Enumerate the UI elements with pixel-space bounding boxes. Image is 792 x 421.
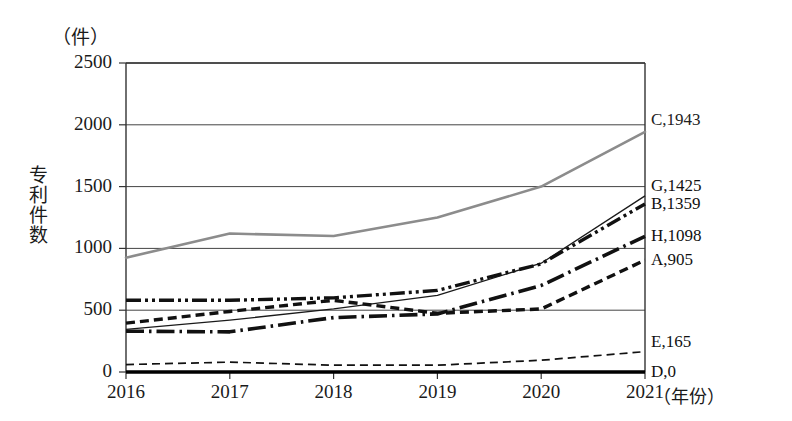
y-tick-label-1000: 1000 bbox=[40, 236, 112, 258]
x-tick-label-2020: 2020 bbox=[501, 381, 581, 403]
x-tick-label-2019: 2019 bbox=[397, 381, 477, 403]
x-tick-label-2017: 2017 bbox=[190, 381, 270, 403]
y-unit-label: （件） bbox=[52, 22, 109, 49]
series-end-label-E: E,165 bbox=[651, 332, 691, 352]
series-line-E bbox=[126, 352, 645, 366]
series-line-B bbox=[126, 204, 645, 300]
series-end-label-B: B,1359 bbox=[651, 194, 701, 214]
y-tick-label-500: 500 bbox=[40, 298, 112, 320]
y-tick-label-0: 0 bbox=[40, 360, 112, 382]
y-tick-label-2500: 2500 bbox=[40, 51, 112, 73]
series-end-label-H: H,1098 bbox=[651, 226, 702, 246]
series-line-C bbox=[126, 132, 645, 258]
series-end-label-D: D,0 bbox=[651, 362, 676, 382]
patent-count-line-chart: （件） 专 利 件 数 0500100015002000250020162017… bbox=[0, 0, 792, 421]
series-end-label-G: G,1425 bbox=[651, 176, 702, 196]
series-line-G bbox=[126, 196, 645, 329]
y-tick-label-1500: 1500 bbox=[40, 175, 112, 197]
series-end-label-A: A,905 bbox=[651, 250, 693, 270]
series-end-label-C: C,1943 bbox=[651, 110, 701, 130]
x-tick-label-2016: 2016 bbox=[86, 381, 166, 403]
x-axis-title: （年份） bbox=[653, 382, 725, 408]
series-line-A bbox=[126, 260, 645, 323]
x-tick-label-2018: 2018 bbox=[294, 381, 374, 403]
y-tick-label-2000: 2000 bbox=[40, 113, 112, 135]
series-line-H bbox=[126, 236, 645, 332]
y-axis-title-char-3: 件 bbox=[26, 205, 50, 225]
